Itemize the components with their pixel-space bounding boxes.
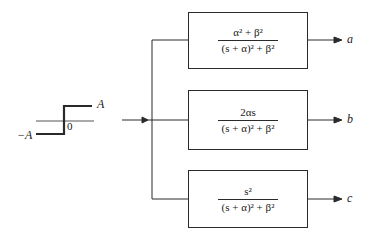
transfer-function-a: α² + β² (s + α)² + β² bbox=[218, 26, 279, 54]
numerator-a: α² + β² bbox=[229, 26, 267, 40]
transfer-block-c: s² (s + α)² + β² bbox=[188, 170, 308, 228]
denominator-c: (s + α)² + β² bbox=[218, 199, 279, 214]
input-arrow bbox=[122, 117, 188, 123]
transfer-function-c: s² (s + α)² + β² bbox=[218, 185, 279, 213]
transfer-block-b: 2αs (s + α)² + β² bbox=[188, 90, 308, 150]
denominator-b: (s + α)² + β² bbox=[218, 120, 279, 135]
transfer-block-a: α² + β² (s + α)² + β² bbox=[188, 12, 308, 69]
numerator-c: s² bbox=[240, 185, 256, 199]
transfer-function-b: 2αs (s + α)² + β² bbox=[218, 106, 279, 134]
output-label-b: b bbox=[347, 112, 353, 127]
numerator-b: 2αs bbox=[236, 106, 260, 120]
input-high-label: A bbox=[97, 97, 104, 112]
output-arrows bbox=[308, 37, 342, 202]
input-origin-label: 0 bbox=[67, 120, 73, 132]
input-low-label: −A bbox=[17, 128, 32, 143]
step-input-icon bbox=[36, 106, 94, 134]
output-label-a: a bbox=[347, 32, 353, 47]
denominator-a: (s + α)² + β² bbox=[218, 40, 279, 55]
output-label-c: c bbox=[347, 191, 352, 206]
diagram-wires bbox=[0, 0, 366, 242]
